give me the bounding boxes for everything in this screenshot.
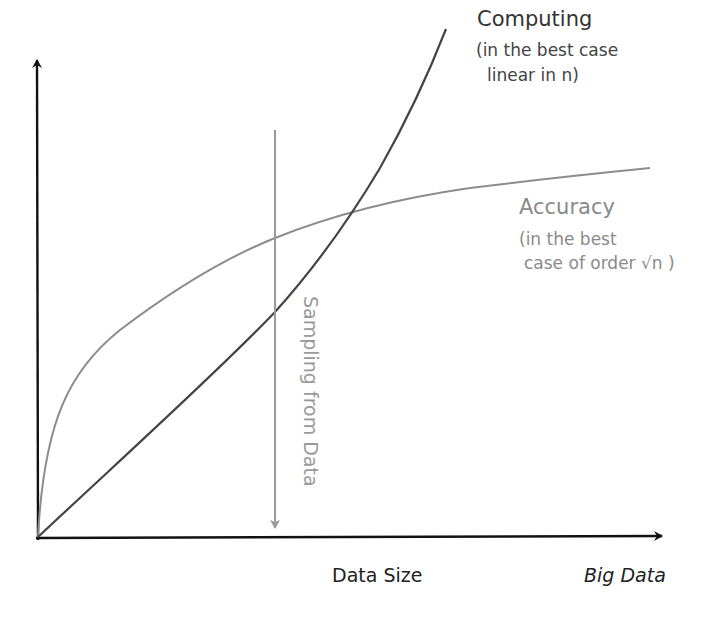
accuracy-label: Accuracy [519,195,615,220]
computing-label: Computing [477,7,592,32]
big-data-label: Big Data [584,564,666,587]
computing-annotation-line2: linear in n) [487,65,579,85]
computing-annotation-line1: (in the best case [476,40,618,60]
x-axis [36,536,662,538]
accuracy-annotation-line2: case of order √n ) [524,253,675,273]
sampling-label: Sampling from Data [299,296,322,487]
diagram-canvas [0,0,719,618]
accuracy-annotation-line1: (in the best [519,229,617,249]
y-axis [37,60,38,540]
x-axis-label: Data Size [332,564,422,587]
computing-curve [38,29,446,537]
